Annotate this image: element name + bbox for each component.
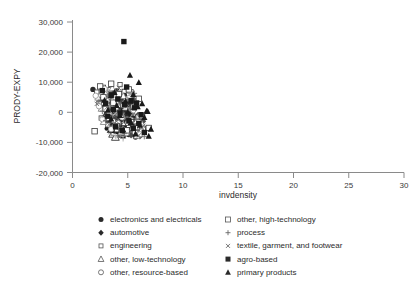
y-tick-label: 10,000	[39, 78, 64, 87]
legend-marker-filled-diamond	[98, 230, 104, 236]
y-tick-label: 0	[59, 108, 64, 117]
axes-group: 30,00020,00010,0000-10,000-20,000 051015…	[36, 18, 409, 190]
legend-label: automotive	[110, 228, 150, 237]
marker-filled-square	[121, 39, 126, 44]
y-tick-label: -20,000	[36, 169, 64, 178]
marker-filled-square	[124, 84, 129, 89]
legend-marker-filled-circle	[99, 217, 104, 222]
x-tick-label: 20	[289, 181, 298, 190]
marker-filled-square	[142, 130, 147, 135]
legend-marker-cross	[226, 244, 230, 248]
data-point-cloud	[90, 39, 154, 142]
scatter-chart-figure: 30,00020,00010,0000-10,000-20,000 051015…	[0, 0, 411, 291]
legend-label: primary products	[237, 268, 297, 277]
marker-filled-triangle	[136, 79, 142, 85]
legend-marker-filled-square	[226, 257, 231, 262]
marker-open-square	[108, 81, 113, 86]
marker-filled-square	[128, 98, 133, 103]
legend-label: electronics and electricals	[110, 215, 202, 224]
legend-marker-open-square	[226, 217, 231, 222]
marker-filled-square	[113, 124, 118, 129]
marker-filled-square	[115, 96, 120, 101]
legend-marker-filled-triangle	[225, 269, 231, 275]
marker-open-square	[92, 129, 97, 134]
legend-label: other, high-technology	[237, 215, 316, 224]
x-tick-label: 30	[400, 181, 409, 190]
legend-label: textile, garment, and footwear	[237, 241, 343, 250]
y-tick-label: 30,000	[39, 18, 64, 27]
marker-open-circle	[93, 93, 98, 98]
legend-label: process	[237, 228, 265, 237]
x-tick-label: 10	[179, 181, 188, 190]
marker-filled-square	[105, 114, 110, 119]
y-tick-label: -10,000	[36, 138, 64, 147]
legend-marker-open-triangle	[98, 256, 104, 262]
x-tick-label: 0	[70, 181, 75, 190]
legend-marker-open-square-small	[99, 244, 103, 248]
legend-label: engineering	[110, 241, 152, 250]
legend-label: other, resource-based	[110, 268, 188, 277]
legend-marker-plus	[226, 230, 231, 235]
x-tick-label: 15	[234, 181, 243, 190]
y-tick-label: 20,000	[39, 48, 64, 57]
marker-open-square-small	[118, 82, 122, 86]
y-axis-title: PRODY-EXPY	[12, 68, 22, 123]
legend-label: agro-based	[237, 255, 277, 264]
x-axis-title: invdensity	[219, 190, 258, 200]
x-tick-label: 25	[344, 181, 353, 190]
legend-label: other, low-technology	[110, 255, 186, 264]
marker-filled-square	[138, 112, 143, 117]
x-axis-ticks: 051015202530	[70, 173, 409, 191]
legend-marker-open-circle	[99, 270, 104, 275]
chart-canvas: 30,00020,00010,0000-10,000-20,000 051015…	[0, 0, 411, 291]
x-tick-label: 5	[126, 181, 131, 190]
marker-filled-square	[131, 126, 136, 131]
marker-filled-square	[100, 88, 105, 93]
y-axis-ticks: 30,00020,00010,0000-10,000-20,000	[36, 18, 73, 178]
marker-filled-triangle	[127, 72, 133, 78]
chart-legend: electronics and electricalsautomotiveeng…	[98, 215, 343, 277]
